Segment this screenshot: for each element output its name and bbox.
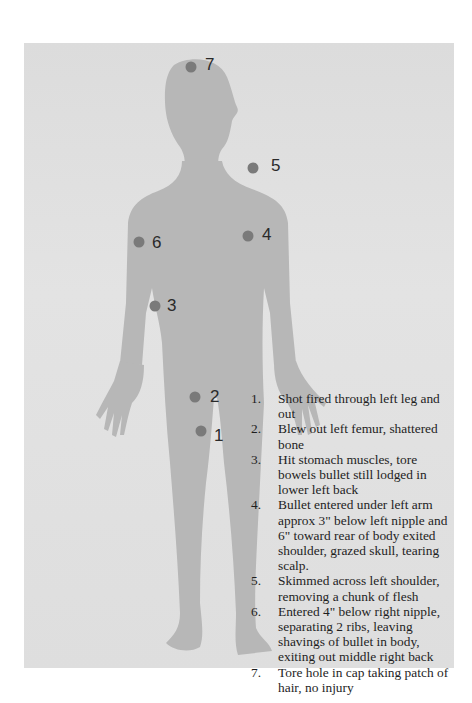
legend-text: Tore hole in cap taking patch of hair, n… bbox=[278, 665, 451, 695]
marker-dot-4[interactable] bbox=[243, 231, 254, 242]
legend-item: 3.Hit stomach muscles, tore bowels bulle… bbox=[251, 452, 451, 498]
marker-label-5: 5 bbox=[271, 157, 280, 174]
legend-item: 4.Bullet entered under left arm approx 3… bbox=[251, 497, 451, 573]
marker-dot-2[interactable] bbox=[190, 392, 201, 403]
legend-item: 1.Shot fired through left leg and out bbox=[251, 391, 451, 421]
legend-number: 4. bbox=[251, 497, 278, 573]
legend-text: Shot fired through left leg and out bbox=[278, 391, 451, 421]
legend-number: 3. bbox=[251, 452, 278, 498]
legend-number: 2. bbox=[251, 421, 278, 451]
marker-dot-7[interactable] bbox=[186, 62, 197, 73]
marker-label-2: 2 bbox=[210, 388, 219, 405]
marker-label-7: 7 bbox=[205, 56, 214, 73]
marker-dot-5[interactable] bbox=[248, 163, 259, 174]
legend-text: Skimmed across left shoulder, removing a… bbox=[278, 573, 451, 603]
legend-text: Blew out left femur, shattered bone bbox=[278, 421, 451, 451]
legend-item: 5.Skimmed across left shoulder, removing… bbox=[251, 573, 451, 603]
legend-text: Entered 4" below right nipple, separatin… bbox=[278, 604, 451, 665]
marker-label-1: 1 bbox=[214, 427, 223, 444]
legend-number: 1. bbox=[251, 391, 278, 421]
marker-label-6: 6 bbox=[152, 234, 161, 251]
wound-legend: 1.Shot fired through left leg and out 2.… bbox=[251, 391, 451, 695]
diagram-panel: 7 5 4 6 3 2 1 1.Shot fired through left … bbox=[24, 43, 454, 668]
legend-number: 7. bbox=[251, 665, 278, 695]
legend-number: 6. bbox=[251, 604, 278, 665]
legend-number: 5. bbox=[251, 573, 278, 603]
marker-dot-1[interactable] bbox=[196, 426, 207, 437]
marker-label-4: 4 bbox=[262, 226, 271, 243]
legend-item: 6.Entered 4" below right nipple, separat… bbox=[251, 604, 451, 665]
legend-item: 2.Blew out left femur, shattered bone bbox=[251, 421, 451, 451]
marker-dot-3[interactable] bbox=[150, 301, 161, 312]
legend-text: Hit stomach muscles, tore bowels bullet … bbox=[278, 452, 451, 498]
marker-label-3: 3 bbox=[167, 297, 176, 314]
legend-item: 7.Tore hole in cap taking patch of hair,… bbox=[251, 665, 451, 695]
marker-dot-6[interactable] bbox=[134, 237, 145, 248]
legend-text: Bullet entered under left arm approx 3" … bbox=[278, 497, 451, 573]
